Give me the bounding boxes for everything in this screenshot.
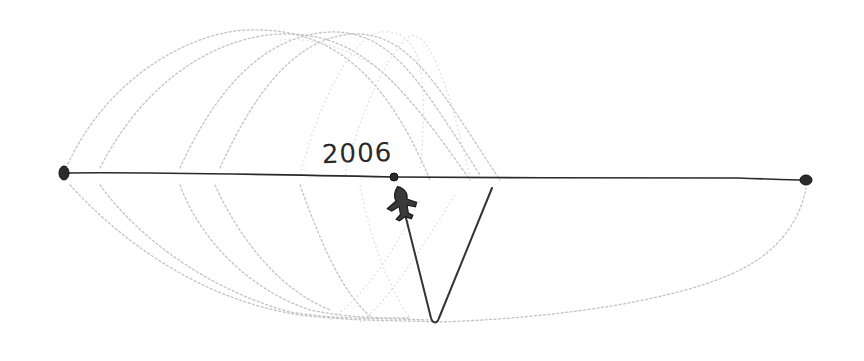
timeline-end-dot[interactable] — [800, 175, 812, 185]
airplane-icon[interactable] — [384, 184, 419, 223]
timeline-midpoint-dot[interactable] — [390, 173, 398, 181]
timeline-line — [66, 173, 805, 180]
timeline-sketch-canvas — [0, 0, 864, 361]
year-label: 2006 — [321, 137, 392, 169]
flight-path — [405, 188, 492, 323]
lower-arcs — [70, 185, 806, 322]
timeline-start-dot[interactable] — [59, 166, 69, 180]
upper-arcs — [66, 30, 500, 180]
